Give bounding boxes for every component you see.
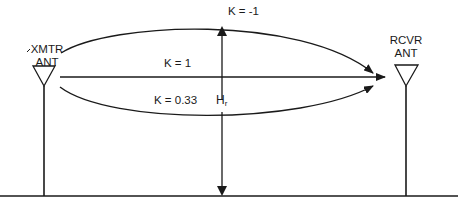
height-marker — [217, 26, 227, 196]
receiver-label: RCVR ANT — [386, 34, 426, 60]
receiver-label-line2: ANT — [386, 47, 426, 60]
arrow-down-icon — [217, 186, 227, 196]
transmitter-label: XMTR ANT — [27, 43, 67, 69]
propagation-diagram — [0, 0, 470, 210]
receiver-label-line1: RCVR — [386, 34, 426, 47]
path-k-minus-1 — [61, 29, 373, 73]
arrow-up-icon — [217, 26, 227, 36]
k-minus-1-label: K = -1 — [228, 5, 259, 18]
height-label-main: H — [216, 93, 225, 107]
transmitter-label-line1: XMTR — [27, 43, 67, 56]
height-label: Hr — [216, 94, 227, 110]
receiver-antenna-icon — [395, 65, 418, 86]
transmitter-antenna-icon — [33, 66, 55, 86]
transmitter-label-line2: ANT — [27, 56, 67, 69]
height-label-sub: r — [225, 99, 228, 108]
k-0-33-label: K = 0.33 — [154, 94, 197, 107]
k-1-label: K = 1 — [164, 57, 191, 70]
transmitter-antenna — [33, 66, 55, 196]
receiver-antenna — [395, 65, 418, 196]
